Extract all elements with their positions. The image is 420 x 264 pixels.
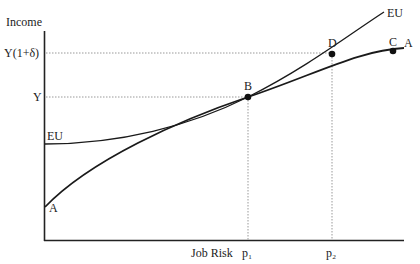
y-tick-y: Y xyxy=(33,90,42,104)
point-b xyxy=(245,94,252,101)
x-tick-p2: p₂ xyxy=(326,246,336,260)
x-axis-title: Job Risk xyxy=(191,246,233,260)
a-label-right: A xyxy=(404,36,413,50)
label-b: B xyxy=(244,79,252,93)
a-curve xyxy=(45,48,404,207)
eu-label-left: EU xyxy=(47,129,63,143)
x-tick-p1: p₁ xyxy=(242,246,252,260)
point-d xyxy=(329,51,336,58)
label-d: D xyxy=(328,36,337,50)
label-c: C xyxy=(389,35,397,49)
a-label-left: A xyxy=(49,201,58,215)
eu-curve xyxy=(45,12,384,144)
eu-label-top: EU xyxy=(387,6,403,20)
y-tick-y1delta: Y(1+δ) xyxy=(4,46,39,60)
diagram: Income Y(1+δ) Y Job Risk p₁ p₂ EU EU A A… xyxy=(0,0,420,264)
y-axis-title: Income xyxy=(6,15,42,29)
